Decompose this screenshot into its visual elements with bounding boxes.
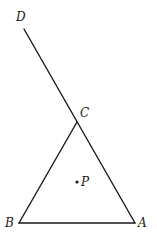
label-A: A [137, 216, 147, 230]
geometry-figure: D C P B A [0, 0, 157, 239]
segment-BC [19, 122, 77, 223]
label-P: P [80, 175, 90, 189]
label-D: D [15, 10, 26, 24]
segment-AD [24, 29, 135, 223]
point-P-dot [75, 180, 78, 183]
label-C: C [80, 106, 89, 120]
label-B: B [4, 216, 14, 230]
